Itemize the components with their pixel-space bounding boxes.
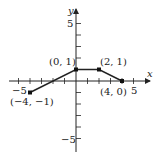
y-tick-label-neg5: −5 <box>61 134 76 145</box>
point-c <box>97 68 101 72</box>
y-tick-label-5: 5 <box>67 18 73 29</box>
x-axis-label: x <box>147 68 153 79</box>
point-label-c: (2, 1) <box>100 56 127 67</box>
point-a <box>28 91 32 95</box>
point-b <box>74 68 78 72</box>
x-tick-label-5: 5 <box>131 85 137 96</box>
point-label-a: (−4, −1) <box>10 96 54 107</box>
y-axis-label: y <box>67 5 74 16</box>
point-d <box>120 79 124 83</box>
graph: y x −5 5 5 −5 (−4, −1) (0, 1) (2, 1) (4,… <box>0 0 157 159</box>
x-tick-label-neg5: −5 <box>12 85 27 96</box>
point-label-b: (0, 1) <box>49 56 76 67</box>
point-label-d: (4, 0) <box>100 86 127 97</box>
